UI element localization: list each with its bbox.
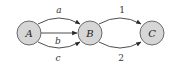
node-a: A (17, 21, 41, 45)
edge-label-a: a (56, 5, 61, 15)
edge-b-to-c-2 (99, 42, 141, 48)
edge-label-c: c (55, 53, 60, 63)
node-b: B (78, 21, 102, 45)
edge-label-b: b (55, 36, 61, 46)
edge-label-2: 2 (118, 53, 124, 63)
edge-a-to-b-a (38, 18, 80, 24)
node-c: C (140, 21, 164, 45)
node-a-label: A (24, 28, 32, 39)
edge-b-to-c-1 (99, 18, 141, 24)
node-c-label: C (148, 28, 156, 39)
edge-label-1: 1 (119, 5, 125, 15)
node-b-label: B (85, 28, 93, 39)
graph-diagram: a b c 1 2 A B C (0, 0, 174, 66)
